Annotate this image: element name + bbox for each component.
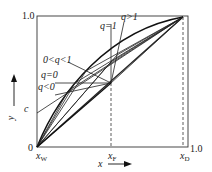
x-arrow-head-icon [124, 161, 132, 167]
y-axis-label: y [6, 116, 16, 120]
y-max-label: 1.0 [22, 11, 35, 21]
xw-label: xW [36, 151, 47, 163]
q-greater-1-label: q>1 [121, 12, 138, 22]
rectifying-line [111, 17, 183, 83]
xf-label: xF [108, 151, 116, 163]
origin-label: 0 [28, 143, 33, 153]
intercept-c-label: c [24, 104, 28, 114]
rectifying-line [68, 17, 183, 91]
y-arrow-head-icon [11, 74, 17, 82]
x-axis-label: x [98, 159, 102, 169]
q-between-0-1-label: 0<q<1 [43, 55, 72, 65]
stripping-line-min [37, 83, 111, 147]
x-max-label: 1.0 [190, 144, 203, 154]
q-equal-0-label: q=0 [41, 70, 58, 80]
q-less-0-label: q<0 [38, 82, 55, 92]
xd-label: xD [180, 151, 190, 163]
stripping-line [37, 91, 68, 147]
q-equal-1-label: q=1 [100, 21, 117, 31]
mccabe-thiele-diagram: 1.0 1.0 0 c y x xW xF xD q>1 q=1 0<q<1 q… [0, 0, 212, 172]
rectifying-line [75, 17, 183, 83]
